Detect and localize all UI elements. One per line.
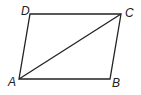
vertex-label-d: D xyxy=(21,4,30,18)
vertex-label-a: A xyxy=(7,75,16,89)
diagonal-ac xyxy=(19,14,121,79)
parallelogram-diagram: A B C D xyxy=(0,0,141,95)
vertex-label-c: C xyxy=(125,6,134,20)
vertex-label-b: B xyxy=(112,76,120,90)
